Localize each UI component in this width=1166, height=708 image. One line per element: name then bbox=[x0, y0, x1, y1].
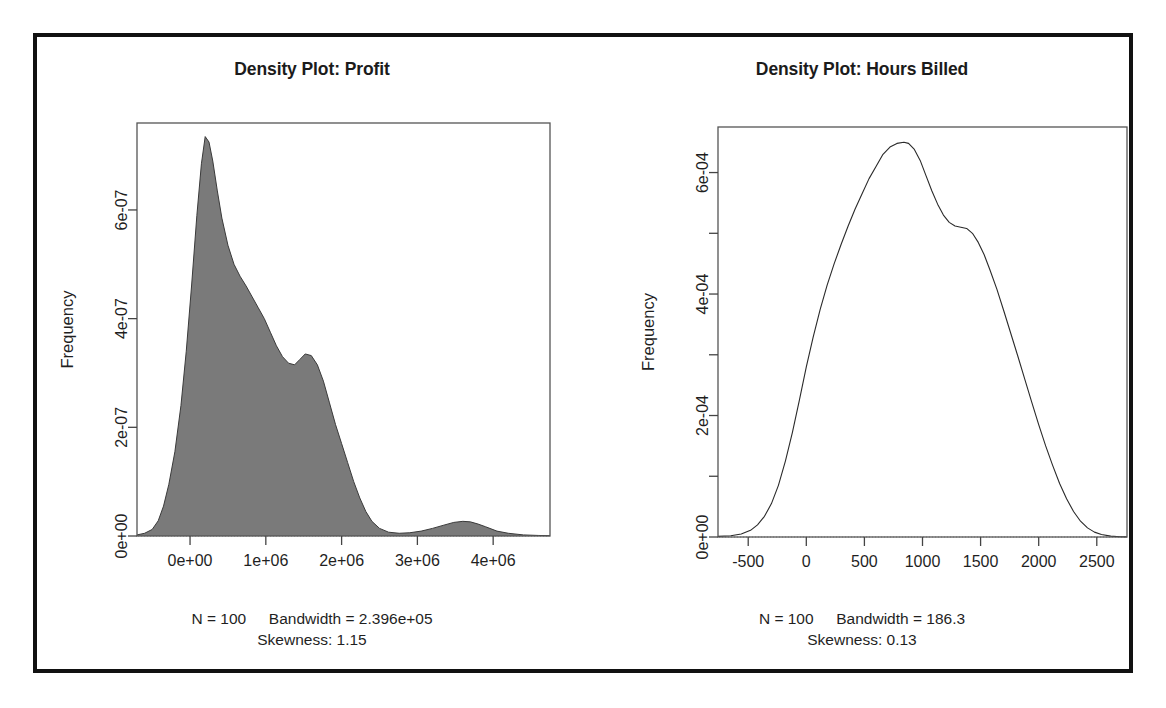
svg-text:1e+06: 1e+06 bbox=[243, 552, 288, 569]
density-plot-hours-billed: -500050010001500200025000e+002e-044e-046… bbox=[587, 37, 1137, 597]
svg-text:2e-07: 2e-07 bbox=[113, 407, 130, 448]
footer-stats-profit: N = 100 Bandwidth = 2.396e+05 bbox=[37, 609, 587, 630]
svg-text:1000: 1000 bbox=[905, 553, 941, 570]
svg-text:4e-07: 4e-07 bbox=[113, 298, 130, 339]
footer-n-hours-billed: N = 100 bbox=[759, 610, 814, 627]
footer-n-profit: N = 100 bbox=[191, 610, 246, 627]
svg-text:Frequency: Frequency bbox=[639, 292, 657, 371]
figure-root: Density Plot: Profit 0e+001e+062e+063e+0… bbox=[0, 0, 1166, 708]
panel-profit: Density Plot: Profit 0e+001e+062e+063e+0… bbox=[37, 37, 587, 677]
svg-text:0e+00: 0e+00 bbox=[168, 552, 213, 569]
svg-text:0e+00: 0e+00 bbox=[694, 514, 711, 559]
svg-text:6e-04: 6e-04 bbox=[694, 152, 711, 193]
svg-text:0e+00: 0e+00 bbox=[113, 513, 130, 558]
svg-text:-500: -500 bbox=[732, 553, 764, 570]
svg-text:6e-07: 6e-07 bbox=[113, 189, 130, 230]
footer-skewness-profit: Skewness: 1.15 bbox=[37, 630, 587, 651]
footer-bandwidth-hours-billed: Bandwidth = 186.3 bbox=[836, 610, 965, 627]
svg-text:3e+06: 3e+06 bbox=[395, 552, 440, 569]
figure-outer-border: Density Plot: Profit 0e+001e+062e+063e+0… bbox=[33, 33, 1133, 673]
svg-text:2e-04: 2e-04 bbox=[694, 395, 711, 436]
panel-hours-billed: Density Plot: Hours Billed -500050010001… bbox=[587, 37, 1137, 677]
svg-text:0: 0 bbox=[802, 553, 811, 570]
svg-text:4e-04: 4e-04 bbox=[694, 273, 711, 314]
svg-text:2000: 2000 bbox=[1021, 553, 1057, 570]
footer-bandwidth-profit: Bandwidth = 2.396e+05 bbox=[269, 610, 433, 627]
svg-text:2e+06: 2e+06 bbox=[319, 552, 364, 569]
footer-stats-hours-billed: N = 100 Bandwidth = 186.3 bbox=[587, 609, 1137, 630]
density-plot-profit: 0e+001e+062e+063e+064e+060e+002e-074e-07… bbox=[37, 37, 587, 597]
footer-skewness-hours-billed: Skewness: 0.13 bbox=[587, 630, 1137, 651]
svg-text:4e+06: 4e+06 bbox=[471, 552, 516, 569]
svg-text:500: 500 bbox=[851, 553, 878, 570]
svg-text:2500: 2500 bbox=[1079, 553, 1115, 570]
svg-text:Frequency: Frequency bbox=[58, 290, 76, 369]
svg-text:1500: 1500 bbox=[963, 553, 999, 570]
